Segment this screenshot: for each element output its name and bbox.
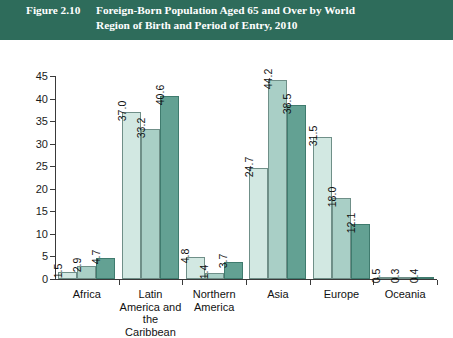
y-axis-tick-value: 25 — [2, 161, 48, 171]
y-axis-tick — [50, 189, 55, 190]
bar: 31.5 — [313, 137, 332, 279]
x-axis-category-label: Africa — [55, 288, 119, 301]
y-axis-tick — [50, 234, 55, 235]
x-axis-category-label: Oceania — [373, 288, 437, 301]
y-axis-tick-label: 30 — [0, 139, 48, 149]
bar-group: 24.744.238.5 — [249, 80, 306, 279]
y-axis-tick-label: 0 — [0, 274, 48, 284]
y-axis-tick — [50, 76, 55, 77]
bar: 1.4 — [205, 273, 224, 279]
y-axis-tick-label: 25 — [0, 161, 48, 171]
figure-number: Figure 2.10 — [26, 3, 80, 18]
y-axis-tick — [50, 211, 55, 212]
bar-value-label: 12.1 — [342, 213, 361, 233]
bar-value-label: 24.7 — [240, 156, 259, 176]
y-axis-tick-value: 35 — [2, 116, 48, 126]
bar-group: 4.81.43.7 — [186, 257, 243, 279]
category-label-line: Europe — [310, 288, 374, 301]
bar: 18.0 — [332, 198, 351, 279]
x-axis-tick — [310, 280, 311, 285]
category-label-line: Northern — [182, 288, 246, 301]
y-axis-tick — [50, 166, 55, 167]
bar-value-label: 40.6 — [151, 85, 170, 105]
y-axis-tick — [50, 121, 55, 122]
chart-plot-area: 051015202530354045 1.52.94.737.033.240.6… — [0, 40, 453, 338]
y-axis-tick-value: 5 — [2, 251, 48, 261]
y-axis-tick-label: 5 — [0, 251, 48, 261]
bar-value-label: 31.5 — [304, 126, 323, 146]
x-axis-category-label: Asia — [246, 288, 310, 301]
y-axis-tick — [50, 256, 55, 257]
x-axis-tick — [246, 280, 247, 285]
category-label-line: Africa — [55, 288, 119, 301]
figure-banner: Figure 2.10 Foreign-Born Population Aged… — [0, 0, 453, 40]
y-axis-tick-value: 10 — [2, 229, 48, 239]
bar-value-label: 18.0 — [323, 187, 342, 207]
figure-container: Figure 2.10 Foreign-Born Population Aged… — [0, 0, 453, 338]
bar-value-label: 4.7 — [87, 250, 106, 265]
y-axis-tick-label: 40 — [0, 94, 48, 104]
bar: 2.9 — [77, 266, 96, 279]
y-axis-tick-value: 20 — [2, 184, 48, 194]
bar: 24.7 — [249, 168, 268, 279]
bar: 4.7 — [96, 258, 115, 279]
category-label-line: America — [182, 301, 246, 314]
category-label-line: Asia — [246, 288, 310, 301]
x-axis-tick — [437, 280, 438, 285]
y-axis-tick-value: 0 — [2, 274, 48, 284]
x-axis-category-label: Europe — [310, 288, 374, 301]
bar-value-label: 0.5 — [367, 268, 386, 283]
bar-value-label: 4.8 — [176, 249, 195, 264]
y-axis-line — [55, 76, 56, 280]
bar: 33.2 — [141, 129, 160, 279]
bar: 0.4 — [415, 277, 434, 280]
y-axis-tick — [50, 279, 55, 280]
banner-text: Figure 2.10 Foreign-Born Population Aged… — [26, 3, 447, 33]
category-label-line: America and — [119, 301, 183, 314]
bar-value-label: 44.2 — [259, 68, 278, 88]
x-axis-category-label: LatinAmerica andthe Caribbean — [119, 288, 183, 338]
y-axis-tick-label: 15 — [0, 206, 48, 216]
bar-value-label: 0.3 — [386, 268, 405, 283]
y-axis-tick-label: 10 — [0, 229, 48, 239]
bar-value-label: 2.9 — [68, 258, 87, 273]
bar-group: 1.52.94.7 — [58, 258, 115, 279]
x-axis-tick — [182, 280, 183, 285]
y-axis-tick-label: 20 — [0, 184, 48, 194]
y-axis-tick-value: 30 — [2, 139, 48, 149]
bar-value-label: 38.5 — [278, 94, 297, 114]
bar: 3.7 — [224, 262, 243, 279]
bar-value-label: 1.4 — [195, 264, 214, 279]
category-label-line: Oceania — [373, 288, 437, 301]
figure-title-line2: Region of Birth and Period of Entry, 201… — [96, 18, 447, 33]
bar: 1.5 — [58, 272, 77, 279]
x-axis-category-label: NorthernAmerica — [182, 288, 246, 313]
y-axis-tick-value: 45 — [2, 71, 48, 81]
y-axis-tick-value: 40 — [2, 94, 48, 104]
bar-value-label: 3.7 — [214, 254, 233, 269]
x-axis-tick — [119, 280, 120, 285]
y-axis-tick — [50, 144, 55, 145]
bar-value-label: 1.5 — [49, 264, 68, 279]
figure-title-line1: Foreign-Born Population Aged 65 and Over… — [96, 3, 447, 18]
category-label-line: the Caribbean — [119, 313, 183, 338]
bar-value-label: 33.2 — [132, 118, 151, 138]
y-axis-tick-label: 45 — [0, 71, 48, 81]
y-axis-tick — [50, 99, 55, 100]
bar-group: 0.50.30.4 — [377, 277, 434, 280]
category-label-line: Latin — [119, 288, 183, 301]
bar-group: 37.033.240.6 — [122, 96, 179, 279]
bar-value-label: 0.4 — [405, 268, 424, 283]
y-axis-tick-label: 35 — [0, 116, 48, 126]
y-axis-tick-value: 15 — [2, 206, 48, 216]
bar-value-label: 37.0 — [113, 101, 132, 121]
bar-group: 31.518.012.1 — [313, 137, 370, 279]
